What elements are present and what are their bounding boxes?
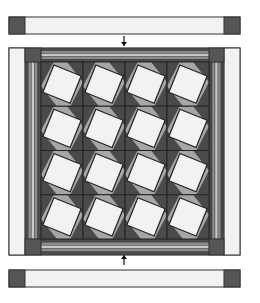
inner-cornerstone bbox=[209, 48, 224, 62]
border-stripe bbox=[41, 51, 209, 54]
arrow-head-icon bbox=[121, 42, 127, 46]
quilt-assembly-diagram bbox=[0, 0, 260, 303]
border-stripe bbox=[35, 62, 38, 239]
cornerstone-right bbox=[224, 270, 240, 287]
quilt-block bbox=[41, 151, 83, 195]
cornerstone-left bbox=[9, 270, 25, 287]
arrow-head-icon bbox=[121, 255, 127, 259]
bottom-inner-border bbox=[41, 239, 209, 255]
quilt-block bbox=[125, 151, 167, 195]
quilt-block bbox=[41, 62, 83, 106]
top-border-strip bbox=[9, 17, 240, 34]
border-stripe bbox=[41, 249, 209, 252]
left-outer-border bbox=[9, 48, 25, 255]
quilt-block bbox=[83, 195, 125, 239]
quilt-block bbox=[41, 195, 83, 239]
quilt-block bbox=[167, 62, 209, 106]
cornerstone-left bbox=[9, 17, 25, 34]
border-stripe bbox=[25, 62, 28, 239]
border-stripe bbox=[41, 242, 209, 245]
border-stripe bbox=[41, 245, 209, 248]
quilt-block bbox=[41, 106, 83, 150]
quilt-block bbox=[83, 62, 125, 106]
border-stripe bbox=[41, 252, 209, 255]
quilt-block bbox=[125, 106, 167, 150]
quilt-block bbox=[167, 106, 209, 150]
quilt-block bbox=[167, 195, 209, 239]
border-stripe bbox=[41, 56, 209, 59]
arrow-up-to-bottom-border bbox=[121, 255, 127, 265]
inner-cornerstone bbox=[209, 239, 224, 255]
cornerstone-right bbox=[224, 17, 240, 34]
left-inner-border bbox=[25, 62, 41, 239]
arrow-down-to-top-border bbox=[121, 36, 127, 46]
quilt-block bbox=[125, 195, 167, 239]
border-stripe bbox=[221, 62, 224, 239]
quilt-block bbox=[83, 106, 125, 150]
border-stripe bbox=[41, 54, 209, 57]
top-inner-border bbox=[41, 48, 209, 62]
diagram-svg bbox=[0, 0, 260, 303]
border-stripe bbox=[215, 62, 218, 239]
border-stripe bbox=[41, 48, 209, 51]
right-outer-border bbox=[224, 48, 240, 255]
right-inner-border bbox=[209, 62, 224, 239]
quilt-block bbox=[125, 62, 167, 106]
border-strip-fabric bbox=[9, 17, 240, 34]
border-stripe bbox=[218, 62, 221, 239]
border-strip-fabric bbox=[9, 270, 240, 287]
inner-cornerstone bbox=[25, 48, 41, 62]
inner-cornerstone bbox=[25, 239, 41, 255]
bottom-border-strip bbox=[9, 270, 240, 287]
quilt-body bbox=[9, 48, 240, 255]
quilt-block bbox=[83, 151, 125, 195]
quilt-block bbox=[167, 151, 209, 195]
border-stripe bbox=[28, 62, 31, 239]
border-stripe bbox=[212, 62, 215, 239]
block-grid bbox=[41, 62, 209, 239]
border-stripe bbox=[31, 62, 34, 239]
